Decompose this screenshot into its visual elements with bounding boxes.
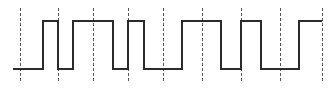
signal-waveform <box>13 21 322 69</box>
square-wave-diagram <box>0 0 329 89</box>
clock-gridlines <box>21 8 323 82</box>
